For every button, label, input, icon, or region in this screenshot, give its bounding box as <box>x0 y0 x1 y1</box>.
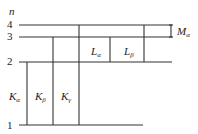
label-k-beta: Kβ <box>34 90 46 104</box>
level-label-4: 4 <box>7 18 13 30</box>
label-k-gamma: Kγ <box>60 90 71 104</box>
energy-level-diagram: n 4 3 2 1 Kα Kβ Kγ Lα Lβ Mα <box>0 0 198 134</box>
level-label-1: 1 <box>7 119 13 131</box>
label-l-beta: Lβ <box>123 45 134 59</box>
level-label-3: 3 <box>7 30 13 42</box>
axis-label-n: n <box>9 5 15 17</box>
label-l-alpha: Lα <box>90 45 101 59</box>
level-label-2: 2 <box>7 55 13 67</box>
label-m-alpha: Mα <box>176 25 190 39</box>
label-k-alpha: Kα <box>8 90 20 104</box>
